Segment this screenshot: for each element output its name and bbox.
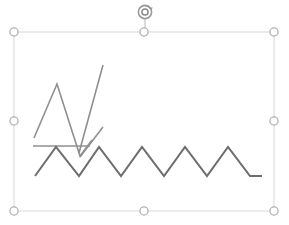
handle-bottom-right[interactable]	[270, 207, 278, 215]
selection-handles[interactable]	[10, 28, 278, 215]
handle-bottom-center[interactable]	[140, 207, 148, 215]
handle-middle-right[interactable]	[270, 117, 278, 125]
handle-top-center[interactable]	[140, 28, 148, 36]
selection-frame	[14, 32, 274, 211]
drawing-canvas[interactable]	[0, 0, 289, 225]
handle-top-left[interactable]	[10, 28, 18, 36]
handle-middle-left[interactable]	[10, 117, 18, 125]
handle-bottom-left[interactable]	[10, 207, 18, 215]
selection-overlay[interactable]	[0, 0, 289, 225]
handle-top-right[interactable]	[270, 28, 278, 36]
rotate-icon[interactable]	[138, 5, 152, 18]
